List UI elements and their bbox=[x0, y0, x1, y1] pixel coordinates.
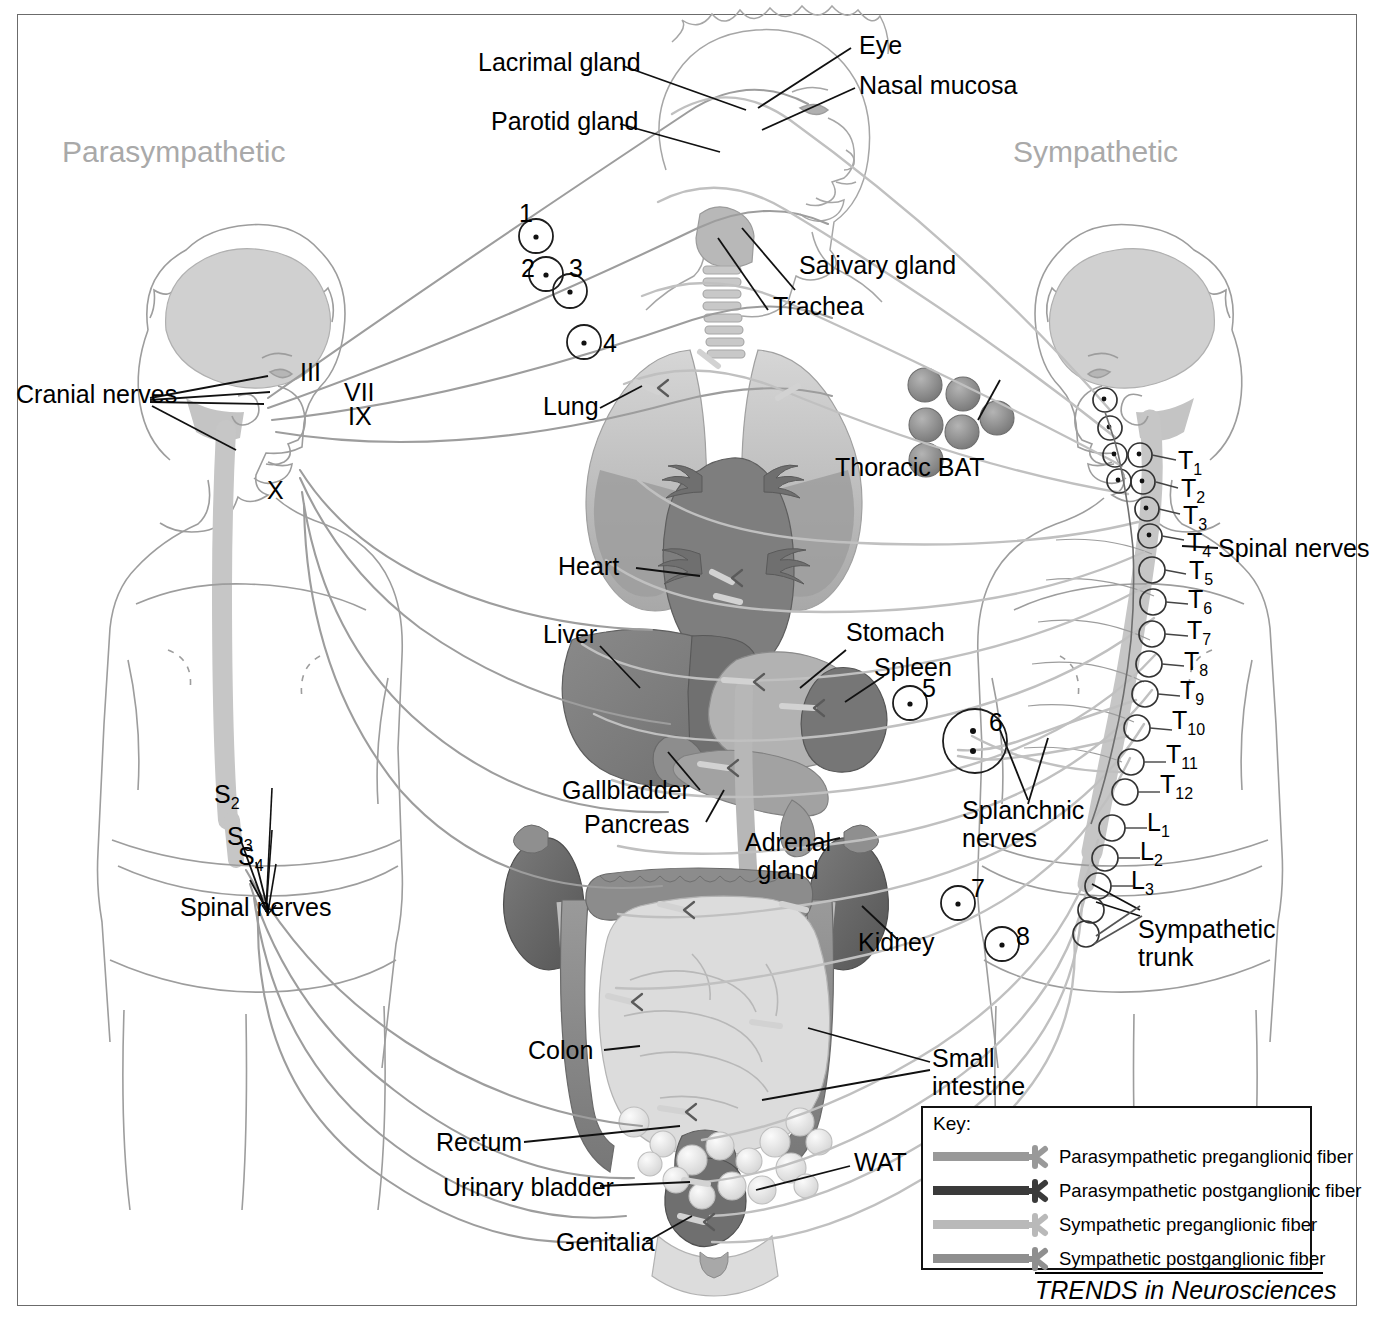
label-salivary-gland: Salivary gland bbox=[799, 251, 956, 279]
label-lung: Lung bbox=[543, 392, 599, 420]
label-sympathetic-trunk: Sympathetic trunk bbox=[1138, 915, 1276, 971]
key-swatch-parasympathetic-postganglionic bbox=[933, 1186, 1029, 1195]
key-terminal-fork-icon-4 bbox=[1021, 1246, 1049, 1272]
key-label-sympathetic-preganglionic: Sympathetic preganglionic fiber bbox=[1059, 1214, 1317, 1236]
key-label-sympathetic-postganglionic: Sympathetic postganglionic fiber bbox=[1059, 1248, 1325, 1270]
journal-credit-text: TRENDS in Neurosciences bbox=[1035, 1276, 1325, 1305]
ganglion-number-1: 1 bbox=[519, 199, 533, 228]
label-cranial-nerve-ix: IX bbox=[348, 402, 372, 430]
label-splanchnic-nerves: Splanchnic nerves bbox=[962, 796, 1084, 852]
left-body-figure bbox=[98, 225, 403, 1210]
label-cranial-nerve-x: X bbox=[267, 476, 284, 504]
label-genitalia: Genitalia bbox=[556, 1228, 655, 1256]
key-legend-box: Key: Parasympathetic preganglionic fiber… bbox=[921, 1106, 1312, 1270]
ganglion-number-4: 4 bbox=[603, 329, 617, 358]
label-lacrimal-gland: Lacrimal gland bbox=[478, 48, 641, 76]
label-spinal-nerves-right: Spinal nerves bbox=[1218, 534, 1369, 562]
label-adrenal-gland: Adrenal gland bbox=[745, 828, 831, 884]
segment-label-T7: T7 bbox=[1187, 616, 1211, 649]
label-sacral-s4: S4 bbox=[238, 842, 264, 875]
label-wat: WAT bbox=[854, 1148, 907, 1176]
key-title: Key: bbox=[933, 1113, 971, 1135]
label-sacral-s2: S2 bbox=[214, 780, 240, 813]
label-kidney: Kidney bbox=[858, 928, 934, 956]
label-liver: Liver bbox=[543, 620, 597, 648]
ganglion-number-5: 5 bbox=[922, 674, 936, 703]
ganglion-number-2: 2 bbox=[521, 254, 535, 283]
label-cranial-nerve-iii: III bbox=[300, 358, 321, 386]
label-eye: Eye bbox=[859, 31, 902, 59]
segment-label-T11: T11 bbox=[1166, 740, 1198, 773]
segment-label-T8: T8 bbox=[1184, 647, 1208, 680]
figure-canvas: Parasympathetic Sympathetic Lacrimal gla… bbox=[0, 0, 1377, 1325]
key-swatch-sympathetic-postganglionic bbox=[933, 1254, 1029, 1263]
label-rectum: Rectum bbox=[436, 1128, 522, 1156]
label-gallbladder: Gallbladder bbox=[562, 776, 690, 804]
label-pancreas: Pancreas bbox=[584, 810, 690, 838]
panel-title-parasympathetic: Parasympathetic bbox=[62, 135, 285, 169]
segment-label-L3: L3 bbox=[1131, 866, 1154, 899]
ganglion-number-8: 8 bbox=[1016, 922, 1030, 951]
label-parotid-gland: Parotid gland bbox=[491, 107, 638, 135]
panel-title-sympathetic: Sympathetic bbox=[1013, 135, 1178, 169]
journal-credit-rule bbox=[1035, 1272, 1323, 1274]
key-swatch-parasympathetic-preganglionic bbox=[933, 1152, 1029, 1161]
ganglion-number-3: 3 bbox=[569, 254, 583, 283]
key-label-parasympathetic-preganglionic: Parasympathetic preganglionic fiber bbox=[1059, 1146, 1353, 1168]
label-small-intestine: Small intestine bbox=[932, 1044, 1025, 1100]
sympathetic-trunk-lower-fan bbox=[1094, 906, 1142, 944]
label-spleen: Spleen bbox=[874, 653, 952, 681]
label-colon: Colon bbox=[528, 1036, 593, 1064]
segment-label-T5: T5 bbox=[1189, 556, 1213, 589]
central-organs bbox=[504, 6, 1014, 1296]
key-terminal-fork-icon-3 bbox=[1021, 1212, 1049, 1238]
label-heart: Heart bbox=[558, 552, 619, 580]
key-swatch-sympathetic-preganglionic bbox=[933, 1220, 1029, 1229]
label-stomach: Stomach bbox=[846, 618, 945, 646]
label-spinal-nerves-left: Spinal nerves bbox=[180, 893, 331, 921]
segment-label-L1: L1 bbox=[1147, 808, 1170, 841]
journal-credit: TRENDS in Neurosciences bbox=[1035, 1272, 1325, 1305]
segment-label-T9: T9 bbox=[1180, 676, 1204, 709]
ganglion-number-7: 7 bbox=[971, 874, 985, 903]
label-thoracic-bat: Thoracic BAT bbox=[835, 453, 985, 481]
ganglion-number-6: 6 bbox=[989, 708, 1003, 737]
larynx-shape bbox=[696, 207, 754, 268]
key-label-parasympathetic-postganglionic: Parasympathetic postganglionic fiber bbox=[1059, 1180, 1361, 1202]
label-cranial-nerves: Cranial nerves bbox=[16, 380, 177, 408]
label-urinary-bladder: Urinary bladder bbox=[443, 1173, 614, 1201]
segment-label-T6: T6 bbox=[1188, 585, 1212, 618]
key-terminal-fork-icon-1 bbox=[1021, 1144, 1049, 1170]
segment-label-L2: L2 bbox=[1140, 837, 1163, 870]
label-nasal-mucosa: Nasal mucosa bbox=[859, 71, 1017, 99]
key-terminal-fork-icon-2 bbox=[1021, 1178, 1049, 1204]
segment-label-T10: T10 bbox=[1172, 706, 1205, 739]
label-trachea: Trachea bbox=[773, 292, 864, 320]
segment-label-T12: T12 bbox=[1160, 770, 1193, 803]
